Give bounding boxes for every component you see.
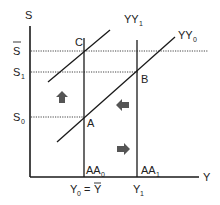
svg-text:Y: Y xyxy=(94,183,102,195)
y1-label: Y 1 xyxy=(133,183,144,197)
svg-text:0: 0 xyxy=(21,118,25,125)
x-axis-label: Y xyxy=(203,171,211,183)
yy0-label: YY 0 xyxy=(178,29,197,43)
svg-text:1: 1 xyxy=(139,20,143,27)
aa0-label: AA 0 xyxy=(86,164,105,178)
y0-label: Y 0 = Y xyxy=(70,183,102,197)
y-axis-label: S xyxy=(25,9,32,21)
point-c-label: C xyxy=(75,36,83,48)
svg-text:AA: AA xyxy=(86,164,101,176)
arrow-left-icon xyxy=(116,99,129,111)
point-b-label: B xyxy=(141,73,148,85)
yy0-curve xyxy=(57,37,175,142)
arrow-right-icon xyxy=(117,143,130,155)
svg-text:1: 1 xyxy=(140,190,144,197)
svg-text:0: 0 xyxy=(193,36,197,43)
svg-text:1: 1 xyxy=(156,171,160,178)
svg-text:YY: YY xyxy=(178,29,193,41)
svg-text:1: 1 xyxy=(21,73,25,80)
svg-text:0: 0 xyxy=(101,171,105,178)
yy1-label: YY 1 xyxy=(124,13,143,27)
svg-text:=: = xyxy=(81,183,94,195)
svg-text:S: S xyxy=(13,111,20,123)
svg-text:YY: YY xyxy=(124,13,139,25)
s-bar-label: S xyxy=(13,42,21,57)
s0-label: S 0 xyxy=(13,111,25,125)
s1-label: S 1 xyxy=(13,66,25,80)
svg-text:S: S xyxy=(13,66,20,78)
svg-text:AA: AA xyxy=(141,164,156,176)
svg-text:S: S xyxy=(13,45,20,57)
aa1-label: AA 1 xyxy=(141,164,160,178)
arrow-up-icon xyxy=(56,91,68,103)
diagram-canvas: S Y S S 1 S 0 Y 0 = Y Y 1 YY 1 YY 0 AA 0… xyxy=(0,0,220,205)
point-a-label: A xyxy=(87,117,95,129)
